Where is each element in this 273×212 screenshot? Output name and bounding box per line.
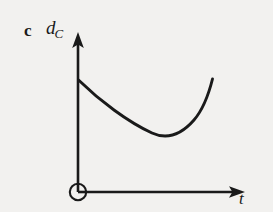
data-curve bbox=[79, 79, 213, 136]
figure-panel: c dC t bbox=[0, 0, 273, 212]
x-axis-label: t bbox=[239, 190, 244, 207]
y-axis-label: dC bbox=[46, 18, 63, 40]
panel-letter: c bbox=[24, 22, 32, 39]
y-axis-label-subscript: C bbox=[55, 26, 64, 41]
plot-canvas bbox=[0, 0, 273, 212]
